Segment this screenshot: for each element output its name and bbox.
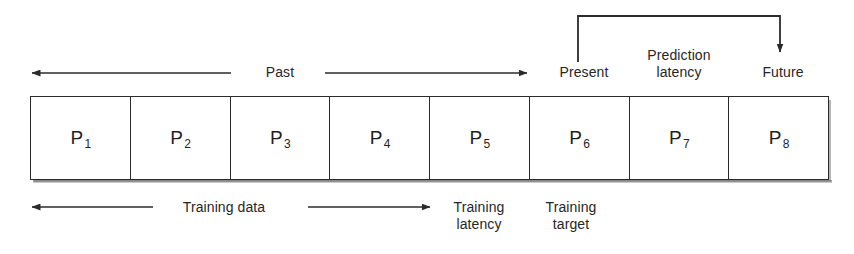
period-band: P1 P2 P3 P4 P5 P6 P7 P8 bbox=[30, 96, 829, 180]
label-training-latency: Training latency bbox=[440, 199, 518, 233]
period-cell[interactable]: P6 bbox=[530, 97, 630, 179]
label-prediction-latency-line1: Prediction bbox=[624, 47, 734, 64]
label-training-target-line2: target bbox=[532, 216, 610, 233]
label-past: Past bbox=[250, 64, 310, 81]
label-present: Present bbox=[548, 64, 620, 81]
period-cell-label: P5 bbox=[469, 127, 489, 149]
period-cell[interactable]: P7 bbox=[630, 97, 730, 179]
period-cell-label: P6 bbox=[569, 127, 589, 149]
period-cell[interactable]: P3 bbox=[231, 97, 331, 179]
period-cell-label: P1 bbox=[70, 127, 90, 149]
label-training-latency-line2: latency bbox=[440, 216, 518, 233]
period-cell[interactable]: P1 bbox=[31, 97, 131, 179]
label-training-target: Training target bbox=[532, 199, 610, 233]
label-prediction-latency: Prediction latency bbox=[624, 47, 734, 81]
label-prediction-latency-line2: latency bbox=[624, 64, 734, 81]
period-cell[interactable]: P4 bbox=[330, 97, 430, 179]
figure-canvas: Past Present Prediction latency Future P… bbox=[0, 0, 854, 254]
band-drop-shadow bbox=[33, 180, 832, 183]
label-training-target-line1: Training bbox=[532, 199, 610, 216]
label-training-latency-line1: Training bbox=[440, 199, 518, 216]
label-training-data: Training data bbox=[164, 199, 284, 216]
period-cell[interactable]: P5 bbox=[430, 97, 530, 179]
period-cell[interactable]: P8 bbox=[729, 97, 828, 179]
label-future: Future bbox=[748, 64, 818, 81]
period-cell[interactable]: P2 bbox=[131, 97, 231, 179]
period-cell-label: P7 bbox=[669, 127, 689, 149]
period-cell-label: P3 bbox=[270, 127, 290, 149]
period-cell-label: P2 bbox=[170, 127, 190, 149]
period-cell-label: P4 bbox=[370, 127, 390, 149]
period-cell-label: P8 bbox=[769, 127, 789, 149]
